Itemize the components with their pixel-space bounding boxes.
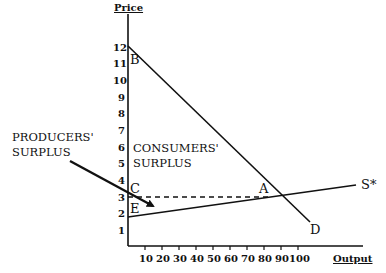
x-tick-labels: 10 20 30 40 50 60 70 80 90 100: [139, 253, 310, 264]
supply-curve: [128, 185, 356, 217]
y-tick-labels: 12 11 10 9 8 7 6 5 4 3 2 1: [113, 42, 127, 236]
y-tick: 2: [118, 208, 125, 219]
producers-surplus-label-1: PRODUCERS': [12, 130, 94, 144]
x-tick: 70: [241, 253, 255, 264]
y-tick: 10: [113, 75, 127, 86]
point-a-label: A: [258, 181, 269, 196]
consumers-surplus-label-2: SURPLUS: [133, 156, 192, 170]
supply-s-label: S*: [361, 177, 377, 192]
y-tick: 3: [118, 192, 125, 203]
x-tick: 10: [139, 253, 153, 264]
surplus-diagram: Price Output 12 11 10 9 8 7 6 5 4 3 2 1 …: [0, 0, 386, 273]
point-d-label: D: [310, 222, 320, 237]
x-axis-title: Output: [333, 253, 373, 264]
y-tick: 1: [118, 225, 125, 236]
x-tick: 30: [173, 253, 187, 264]
point-c-label: C: [130, 181, 140, 196]
x-tick: 90: [275, 253, 289, 264]
x-tick: 60: [224, 253, 238, 264]
y-tick: 12: [113, 42, 127, 53]
y-tick: 7: [118, 125, 125, 136]
point-e-label: E: [130, 201, 140, 216]
y-tick: 9: [118, 92, 125, 103]
x-tick: 40: [190, 253, 204, 264]
x-tick: 80: [258, 253, 272, 264]
y-tick: 11: [113, 58, 127, 69]
consumers-surplus-label-1: CONSUMERS': [133, 141, 219, 155]
point-b-label: B: [130, 52, 140, 67]
y-axis-title: Price: [114, 2, 143, 13]
y-tick: 5: [118, 158, 125, 169]
y-tick: 8: [118, 108, 125, 119]
y-tick: 6: [118, 142, 125, 153]
x-tick: 50: [207, 253, 221, 264]
x-tick: 100: [289, 253, 310, 264]
producers-surplus-label-2: SURPLUS: [12, 145, 71, 159]
y-tick: 4: [118, 175, 125, 186]
x-tick: 20: [156, 253, 170, 264]
